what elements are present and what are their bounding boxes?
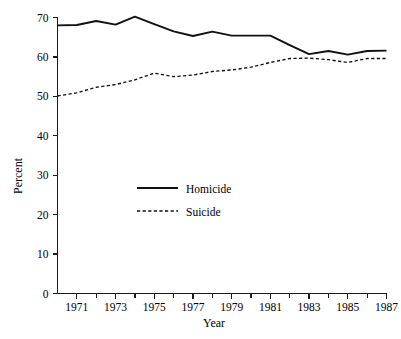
x-tick-label: 1983	[298, 301, 321, 313]
x-tick-label: 1977	[181, 301, 204, 313]
y-tick-label: 30	[37, 169, 49, 181]
x-tick-label: 1981	[259, 301, 282, 313]
x-tick-label: 1973	[104, 301, 127, 313]
y-tick-label: 40	[37, 130, 49, 142]
x-axis: 197119731975197719791981198319851987	[65, 294, 398, 313]
legend-label-homicide: Homicide	[186, 183, 231, 195]
y-tick-label: 70	[37, 12, 49, 24]
y-tick-label: 60	[37, 51, 49, 63]
chart-background	[0, 0, 401, 339]
x-tick-label: 1975	[143, 301, 166, 313]
x-axis-title: Year	[203, 316, 225, 330]
y-tick-label: 50	[37, 90, 49, 102]
line-chart: 010203040506070 197119731975197719791981…	[0, 0, 401, 339]
legend-label-suicide: Suicide	[186, 206, 221, 218]
y-axis-title: Percent	[11, 157, 25, 194]
x-tick-label: 1985	[336, 301, 359, 313]
y-tick-label: 0	[43, 288, 49, 300]
y-tick-label: 10	[37, 248, 49, 260]
x-tick-label: 1987	[375, 301, 398, 313]
chart-container: 010203040506070 197119731975197719791981…	[0, 0, 401, 339]
x-tick-label: 1979	[220, 301, 243, 313]
y-tick-label: 20	[37, 209, 49, 221]
x-tick-label: 1971	[65, 301, 88, 313]
